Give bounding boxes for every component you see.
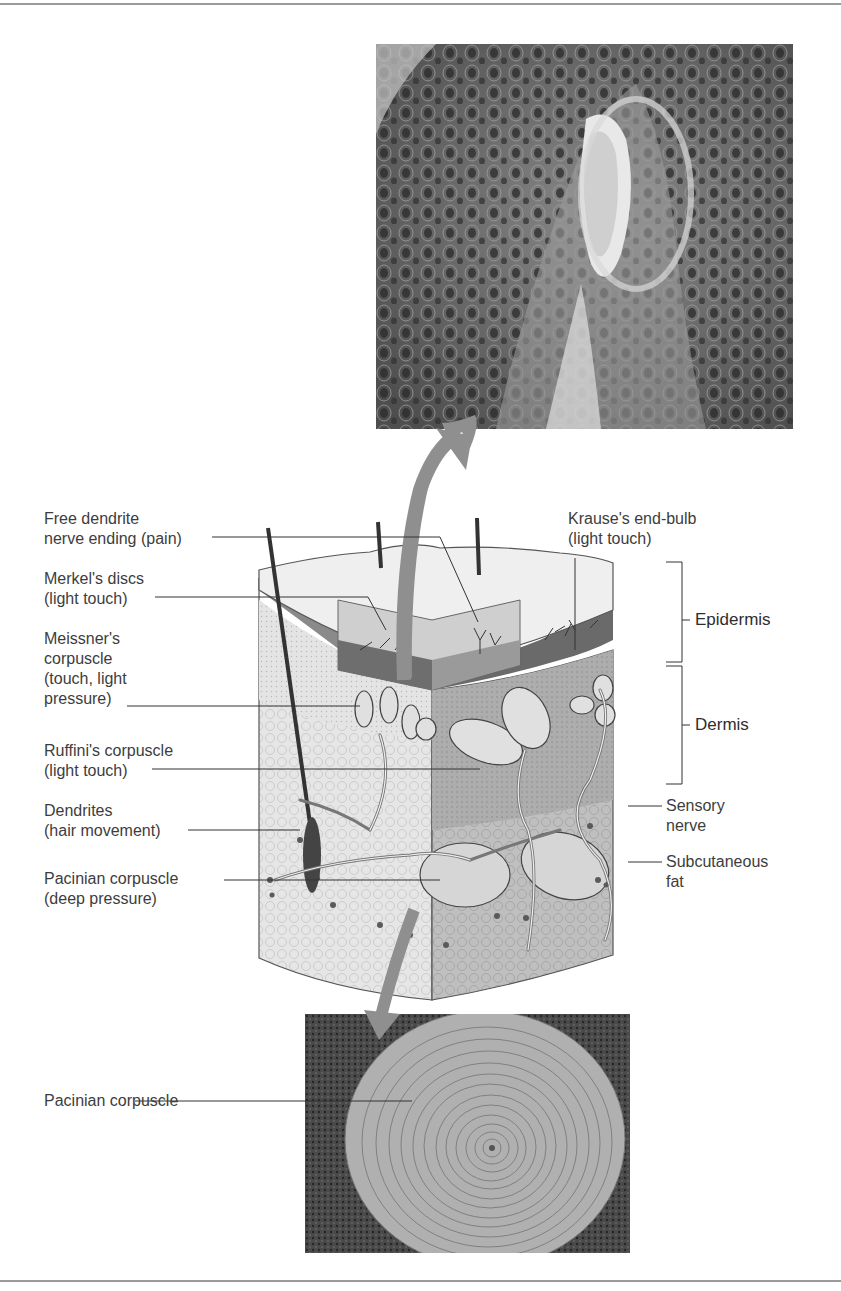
label-pacinian-deep: Pacinian corpuscle (deep pressure) [44, 869, 178, 909]
label-dendrites-hair: Dendrites (hair movement) [44, 801, 160, 841]
label-merkels-discs: Merkel's discs (light touch) [44, 569, 144, 609]
label-meissners-corpuscle: Meissner's corpuscle (touch, light press… [44, 629, 127, 709]
label-dermis: Dermis [695, 715, 749, 735]
label-ruffinis-corpuscle: Ruffini's corpuscle (light touch) [44, 741, 173, 781]
label-epidermis: Epidermis [695, 610, 771, 630]
label-free-dendrite: Free dendrite nerve ending (pain) [44, 509, 182, 549]
label-sensory-nerve: Sensory nerve [666, 796, 725, 836]
label-krauses-end-bulb: Krause's end-bulb (light touch) [568, 509, 696, 549]
label-subcutaneous-fat: Subcutaneous fat [666, 852, 768, 892]
label-pacinian-corpuscle-micrograph: Pacinian corpuscle [44, 1091, 178, 1111]
